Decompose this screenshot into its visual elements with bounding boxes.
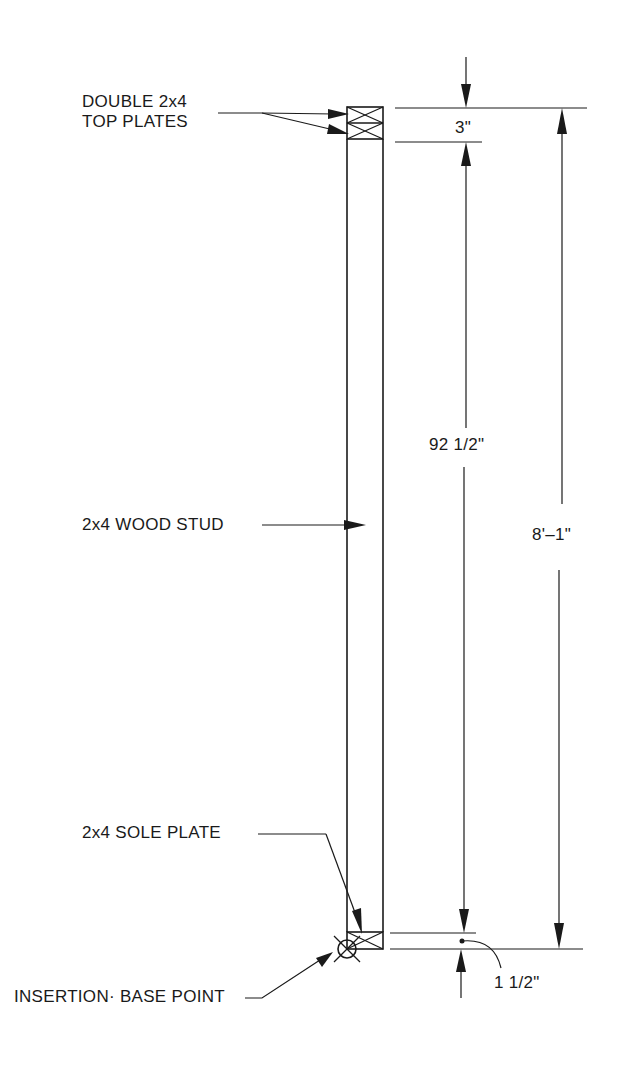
arrowhead-down-icon <box>554 923 564 949</box>
dimension-overall-height: 8'–1" <box>532 108 571 949</box>
wood-stud <box>347 139 383 932</box>
top-plates <box>347 107 383 139</box>
callout-insertion-point: INSERTION· BASE POINT <box>14 952 333 1006</box>
sole-plate <box>347 932 383 949</box>
arrowhead-icon <box>316 952 333 967</box>
arrowhead-icon <box>327 124 349 134</box>
label-insertion-point: INSERTION· BASE POINT <box>14 987 225 1006</box>
dimension-text-overall-height: 8'–1" <box>532 525 571 544</box>
arrowhead-down-icon <box>459 909 469 933</box>
label-sole-plate: 2x4 SOLE PLATE <box>82 823 221 842</box>
callout-top-plates: DOUBLE 2x4 TOP PLATES <box>82 92 349 134</box>
arrowhead-icon <box>344 520 366 530</box>
arrowhead-icon <box>328 109 349 119</box>
dimension-text-stud-length: 92 1/2" <box>429 435 484 454</box>
dimension-stud-length: 92 1/2" <box>429 142 484 933</box>
arrowhead-down-icon <box>461 84 471 108</box>
dimension-text-top-plates: 3" <box>455 118 471 137</box>
label-top-plates-line1: DOUBLE 2x4 <box>82 92 187 111</box>
label-wood-stud: 2x4 WOOD STUD <box>82 515 224 534</box>
drawing-canvas: DOUBLE 2x4 TOP PLATES 2x4 WOOD STUD 2x4 … <box>0 0 626 1081</box>
dimension-sole-plate: 1 1/2" <box>456 939 540 999</box>
label-top-plates-line2: TOP PLATES <box>82 112 188 131</box>
dimension-top-plates: 3" <box>455 57 471 137</box>
stud-assembly <box>334 107 383 962</box>
arrowhead-icon <box>352 908 362 934</box>
callout-sole-plate: 2x4 SOLE PLATE <box>82 823 362 934</box>
callout-wood-stud: 2x4 WOOD STUD <box>82 515 366 534</box>
dimension-text-sole-plate: 1 1/2" <box>494 973 540 992</box>
insertion-point-marker <box>334 936 360 962</box>
